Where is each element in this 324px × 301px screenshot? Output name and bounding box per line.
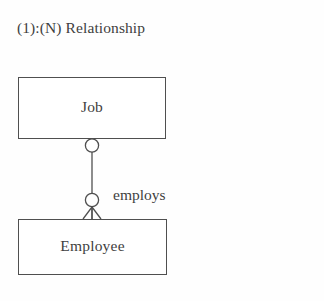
- cardinality-circle-employee: [85, 193, 98, 206]
- crows-foot-left: [83, 207, 92, 219]
- entity-label-employee: Employee: [60, 237, 124, 255]
- diagram-canvas: (1):(N) Relationship Job Employee employ…: [0, 0, 324, 301]
- entity-label-job: Job: [81, 98, 103, 116]
- entity-box-job[interactable]: Job: [18, 77, 166, 139]
- diagram-title: (1):(N) Relationship: [17, 18, 145, 38]
- entity-box-employee[interactable]: Employee: [18, 219, 167, 275]
- crows-foot-right: [92, 207, 101, 219]
- cardinality-circle-job: [85, 139, 98, 152]
- relationship-label-employs: employs: [113, 185, 166, 205]
